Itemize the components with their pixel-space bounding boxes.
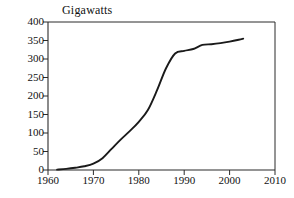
x-tick-label: 2000 bbox=[210, 174, 250, 186]
x-tick-label: 1960 bbox=[28, 174, 68, 186]
y-tick-label: 100 bbox=[18, 127, 44, 138]
y-tick-label: 200 bbox=[18, 90, 44, 101]
x-tick-label: 1980 bbox=[119, 174, 159, 186]
chart-container: Gigawatts bbox=[0, 0, 294, 198]
x-axis-tick-labels: 196019701980199020002010 bbox=[0, 174, 294, 194]
y-tick-label: 400 bbox=[18, 16, 44, 27]
data-series-line bbox=[57, 39, 243, 170]
y-tick-label: 150 bbox=[18, 109, 44, 120]
y-axis-tick-labels: 050100150200250300350400 bbox=[16, 0, 44, 198]
y-tick-label: 250 bbox=[18, 72, 44, 83]
y-tick-label: 50 bbox=[18, 146, 44, 157]
x-tick-label: 2010 bbox=[255, 174, 294, 186]
axis-frame bbox=[48, 22, 275, 170]
chart-plot-area bbox=[0, 0, 294, 198]
x-tick-label: 1990 bbox=[164, 174, 204, 186]
y-tick-label: 350 bbox=[18, 35, 44, 46]
x-tick-label: 1970 bbox=[73, 174, 113, 186]
y-tick-label: 300 bbox=[18, 53, 44, 64]
